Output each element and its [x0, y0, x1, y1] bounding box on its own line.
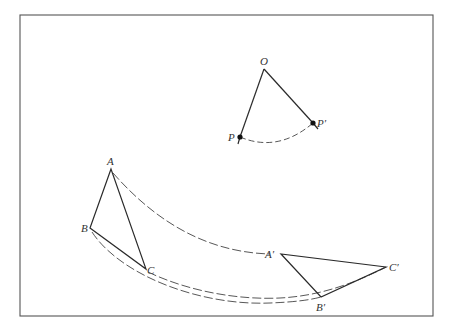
point-rotation-group: O P P′: [227, 55, 327, 144]
triangle-ABC-shape: [90, 169, 146, 269]
figure-frame: [20, 15, 433, 316]
segment-OP: [240, 69, 264, 137]
point-P-prime-dot: [310, 120, 315, 125]
arc-C-to-C-prime: [148, 267, 386, 298]
label-B: B: [81, 222, 88, 234]
segment-OP-prime: [264, 69, 313, 123]
arc-P-to-P-prime: [240, 123, 313, 143]
label-P: P: [227, 131, 235, 143]
label-A-prime: A′: [264, 248, 275, 260]
rotation-diagram: O P P′ A B C A′ B′ C′: [0, 0, 452, 330]
rotation-arcs: [92, 173, 386, 303]
triangle-A-prime-B-prime-C-prime: A′ B′ C′: [264, 248, 399, 313]
arc-B-to-B-prime: [92, 232, 321, 303]
label-O: O: [260, 55, 268, 67]
triangle-image-shape: [281, 254, 386, 297]
label-A: A: [106, 155, 114, 167]
label-P-prime: P′: [316, 117, 327, 129]
label-B-prime: B′: [316, 301, 326, 313]
point-P-dot: [237, 134, 242, 139]
triangle-ABC: A B C: [81, 155, 155, 276]
label-C-prime: C′: [389, 261, 399, 273]
